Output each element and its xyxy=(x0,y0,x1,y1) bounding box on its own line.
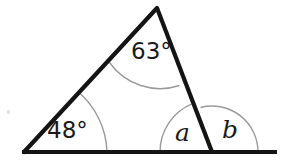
triangle-left-side xyxy=(24,8,157,152)
apex-angle-arc xyxy=(110,63,180,89)
apex-angle-label: 63° xyxy=(131,40,172,63)
angle-b-label: b xyxy=(222,117,238,142)
geometry-canvas xyxy=(0,0,288,168)
angle-a-label: a xyxy=(175,120,190,145)
geometry-figure: 63° 48° a b xyxy=(0,0,288,168)
scan-artifact-speck xyxy=(7,110,10,114)
left-angle-label: 48° xyxy=(47,119,88,142)
